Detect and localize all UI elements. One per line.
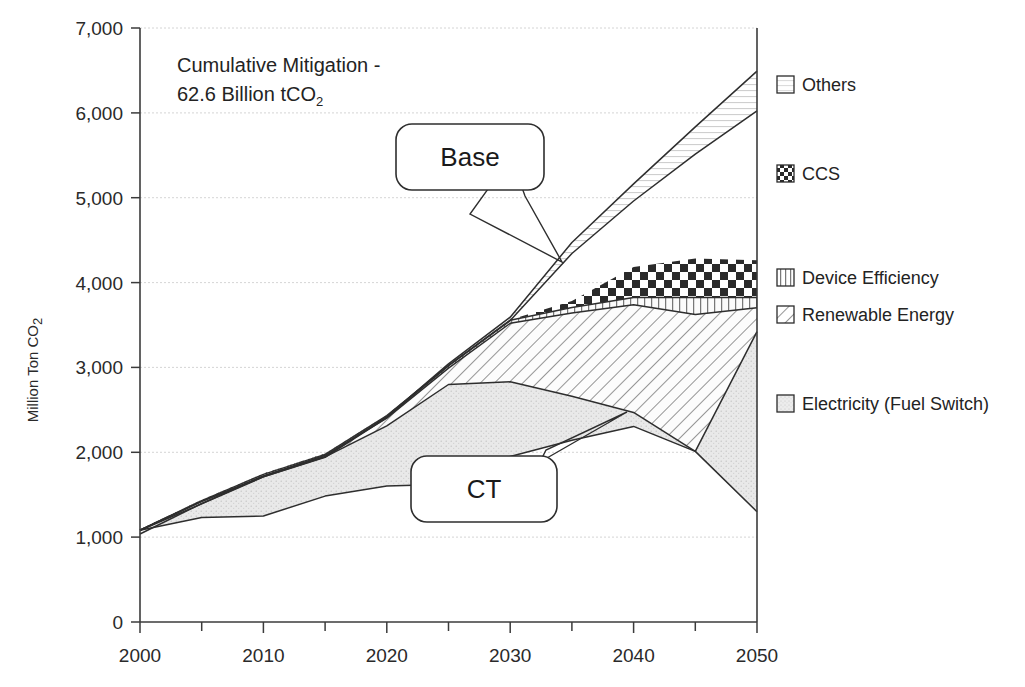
y-tick-2000: 2,000: [75, 442, 123, 463]
legend-item-electricity-fuel-switch[interactable]: Electricity (Fuel Switch): [777, 394, 989, 414]
legend-swatch-ccs: [777, 165, 794, 182]
y-tick-6000: 6,000: [75, 103, 123, 124]
note-line-1: Cumulative Mitigation -: [177, 54, 380, 76]
legend-swatch-others: [777, 76, 794, 93]
x-tick-2030: 2030: [489, 645, 531, 666]
legend-swatch-electricity-fuel-switch: [777, 395, 794, 412]
legend-label-ccs: CCS: [802, 164, 840, 184]
legend-item-others[interactable]: Others: [777, 75, 856, 95]
x-tick-2050: 2050: [736, 645, 778, 666]
y-tick-4000: 4,000: [75, 273, 123, 294]
x-tick-2010: 2010: [242, 645, 284, 666]
legend-item-device-efficiency[interactable]: Device Efficiency: [777, 268, 939, 288]
legend-item-ccs[interactable]: CCS: [777, 164, 840, 184]
y-axis-title-subscript: 2: [30, 318, 45, 325]
note-line-2-subscript: 2: [316, 94, 323, 109]
y-axis-title-text: Million Ton CO: [24, 325, 41, 422]
legend-label-electricity-fuel-switch: Electricity (Fuel Switch): [802, 394, 989, 414]
y-tick-3000: 3,000: [75, 357, 123, 378]
y-tick-0: 0: [112, 612, 123, 633]
y-tick-1000: 1,000: [75, 527, 123, 548]
legend-swatch-renewable-energy: [777, 306, 794, 323]
emissions-stacked-area-chart: 7,000 6,000 5,000 4,000 3,000 2,000 1,00…: [0, 0, 1025, 687]
legend-label-device-efficiency: Device Efficiency: [802, 268, 939, 288]
y-tick-5000: 5,000: [75, 188, 123, 209]
base-callout-label: Base: [440, 142, 499, 172]
legend-swatch-device-efficiency: [777, 269, 794, 286]
x-tick-2040: 2040: [612, 645, 654, 666]
legend-label-others: Others: [802, 75, 856, 95]
legend-label-renewable-energy: Renewable Energy: [802, 305, 954, 325]
x-tick-2000: 2000: [119, 645, 161, 666]
x-tick-2020: 2020: [366, 645, 408, 666]
legend-item-renewable-energy[interactable]: Renewable Energy: [777, 305, 954, 325]
y-tick-7000: 7,000: [75, 18, 123, 39]
ct-callout-label: CT: [467, 474, 502, 504]
note-line-2: 62.6 Billion tCO: [177, 83, 316, 105]
